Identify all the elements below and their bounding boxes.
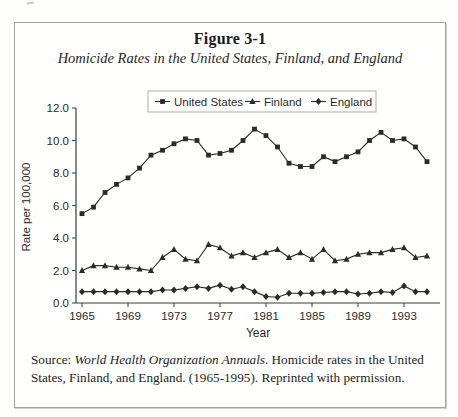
source-publication: World Health Organization Annuals: [75, 352, 265, 367]
source-note: Source: World Health Organization Annual…: [31, 351, 435, 387]
svg-text:2.0: 2.0: [53, 265, 69, 277]
svg-text:8.0: 8.0: [53, 167, 69, 179]
legend: United StatesFinlandEngland: [148, 91, 376, 112]
y-axis-title: Rate per 100,000: [20, 163, 32, 252]
series-finland: [79, 241, 430, 273]
svg-text:1985: 1985: [299, 310, 325, 322]
x-axis-title: Year: [246, 326, 270, 340]
scanned-page: Figure 3-1 Homicide Rates in the United …: [0, 0, 458, 417]
svg-text:1977: 1977: [207, 310, 233, 322]
svg-text:1973: 1973: [161, 310, 187, 322]
svg-text:10.0: 10.0: [47, 135, 69, 147]
svg-text:1981: 1981: [253, 310, 279, 322]
svg-text:0.0: 0.0: [53, 297, 69, 309]
y-axis: 0.02.04.06.08.010.012.0: [47, 102, 76, 309]
figure-title: Figure 3-1: [15, 30, 445, 48]
legend-label-united-states: United States: [174, 96, 243, 108]
svg-text:1969: 1969: [115, 310, 141, 322]
series-england: [79, 282, 430, 301]
source-prefix: Source:: [31, 352, 75, 367]
svg-text:1965: 1965: [69, 310, 95, 322]
homicide-rates-line-chart: 0.02.04.06.08.010.012.019651969197319771…: [15, 89, 445, 343]
series-united-states: [80, 127, 430, 216]
figure-subtitle: Homicide Rates in the United States, Fin…: [15, 50, 445, 67]
svg-text:6.0: 6.0: [53, 200, 69, 212]
figure-box: Figure 3-1 Homicide Rates in the United …: [14, 22, 446, 408]
svg-text:1993: 1993: [391, 310, 417, 322]
svg-text:1989: 1989: [345, 310, 371, 322]
scan-speck: [27, 2, 35, 9]
svg-text:4.0: 4.0: [53, 232, 69, 244]
x-axis: 19651969197319771981198519891993: [69, 303, 417, 322]
legend-label-england: England: [330, 96, 372, 108]
legend-label-finland: Finland: [264, 96, 302, 108]
svg-text:12.0: 12.0: [47, 102, 69, 114]
